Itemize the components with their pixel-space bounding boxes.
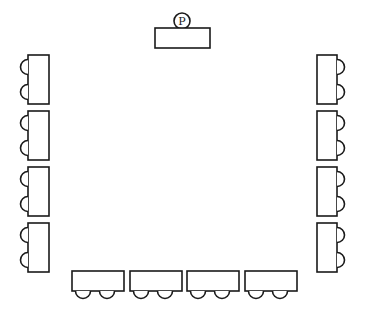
bottom-table-4 (245, 271, 297, 299)
chair (21, 141, 28, 156)
bottom-table-2 (130, 271, 182, 299)
table (317, 167, 337, 216)
chair (273, 291, 288, 299)
right-table-row (317, 55, 345, 272)
table (317, 55, 337, 104)
chair (21, 253, 28, 268)
right-table-3 (317, 167, 345, 216)
chair (158, 291, 173, 299)
chair (21, 172, 28, 187)
bottom-table-1 (72, 271, 124, 299)
left-table-2 (21, 111, 49, 160)
presenter-label: P (178, 15, 186, 28)
podium-table (155, 28, 210, 48)
right-table-2 (317, 111, 345, 160)
table (317, 223, 337, 272)
chair (76, 291, 91, 299)
bottom-table-3 (187, 271, 239, 299)
chair (337, 253, 345, 268)
table (187, 271, 239, 291)
chair (191, 291, 206, 299)
table (28, 55, 49, 104)
chair (21, 228, 28, 243)
chair (337, 59, 345, 74)
left-table-row (20, 55, 49, 272)
chair (249, 291, 264, 299)
chair (21, 197, 28, 212)
table (28, 111, 49, 160)
chair (337, 172, 345, 187)
table (28, 167, 49, 216)
left-table-4 (21, 223, 49, 272)
table (245, 271, 297, 291)
table (28, 223, 49, 272)
chair (100, 291, 115, 299)
chair (337, 116, 345, 131)
table (317, 111, 337, 160)
chair (134, 291, 149, 299)
chair (337, 141, 345, 156)
left-table-1 (20, 55, 49, 104)
left-table-3 (21, 167, 49, 216)
chair (21, 85, 28, 100)
table (72, 271, 124, 291)
podium: P (155, 13, 210, 48)
seating-layout-diagram: P (0, 0, 365, 322)
bottom-table-row (72, 271, 297, 299)
right-table-1 (317, 55, 345, 104)
chair (21, 116, 28, 131)
chair (337, 197, 345, 212)
table (130, 271, 182, 291)
right-table-4 (317, 223, 345, 272)
chair (20, 59, 28, 74)
chair (337, 85, 345, 100)
chair (215, 291, 230, 299)
chair (337, 228, 345, 243)
